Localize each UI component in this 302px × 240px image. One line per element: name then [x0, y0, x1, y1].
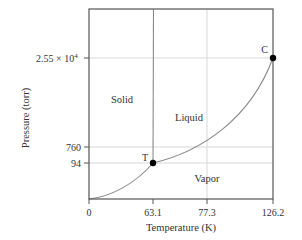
region-vapor-label: Vapor — [194, 173, 220, 184]
y-tick-2.55e4: 2.55 × 104 — [36, 52, 78, 64]
x-tick-63.1: 63.1 — [144, 207, 162, 218]
x-tick-77.3: 77.3 — [198, 207, 216, 218]
x-tick-126.2: 126.2 — [262, 207, 285, 218]
triple-point-label: T — [142, 152, 148, 163]
melting-curve — [153, 9, 154, 163]
critical-point-marker — [270, 55, 276, 61]
sublimation-curve — [89, 163, 153, 199]
y-tick-760: 760 — [66, 142, 81, 153]
y-tick-94: 94 — [71, 158, 81, 169]
triple-point-marker — [150, 160, 156, 166]
region-liquid-label: Liquid — [175, 112, 204, 123]
critical-point-label: C — [261, 44, 268, 55]
x-axis-title: Temperature (K) — [146, 222, 217, 234]
y-axis-title: Pressure (torr) — [20, 87, 32, 148]
phase-diagram: 2.55 × 104 760 94 0 63.1 77.3 126.2 Temp… — [0, 0, 302, 240]
region-solid-label: Solid — [111, 94, 134, 105]
x-tick-0: 0 — [87, 207, 92, 218]
ticks — [84, 58, 273, 204]
